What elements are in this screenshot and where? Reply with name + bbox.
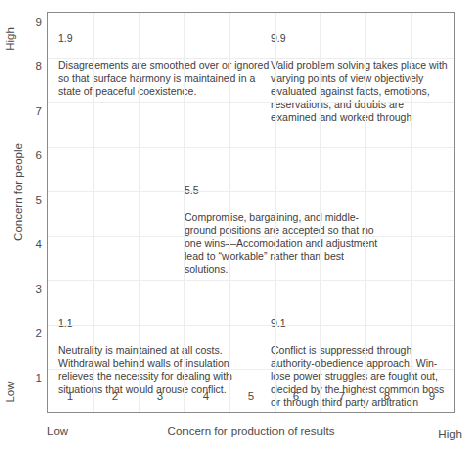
cell-annotation-1-1: 1.1 Neutrality is maintained at all cost…	[58, 304, 258, 396]
cell-text-9-9: Valid problem solving takes place with v…	[271, 59, 448, 124]
gridline-horizontal	[48, 147, 454, 148]
gridline-horizontal	[48, 236, 454, 237]
gridline-vertical	[93, 13, 94, 412]
x-axis-tick-labels: 123456789	[47, 390, 455, 412]
gridline-vertical	[411, 13, 412, 412]
y-tick-label: 2	[28, 327, 42, 339]
gridline-vertical	[184, 13, 185, 412]
cell-annotation-9-9: 9.9 Valid problem solving takes place wi…	[271, 19, 451, 125]
gridline-horizontal	[48, 102, 454, 103]
gridline-horizontal	[48, 280, 454, 281]
gridline-vertical	[275, 13, 276, 412]
cell-code-1-1: 1.1	[58, 317, 258, 330]
gridline-horizontal	[48, 191, 454, 192]
x-tick-label: 6	[281, 390, 311, 402]
gridline-horizontal	[48, 369, 454, 370]
x-tick-label: 9	[417, 390, 447, 402]
x-tick-label: 2	[100, 390, 130, 402]
managerial-grid-diagram: { "chart_data": { "type": "scatter", "ti…	[0, 0, 470, 460]
cell-code-9-9: 9.9	[271, 32, 451, 45]
x-axis-title: Concern for production of results	[47, 425, 455, 437]
y-tick-label: 9	[28, 16, 42, 28]
gridline-vertical	[139, 13, 140, 412]
gridline-vertical	[229, 13, 230, 412]
cell-code-1-9: 1.9	[58, 32, 273, 45]
y-tick-label: 7	[28, 105, 42, 117]
gridline-vertical	[320, 13, 321, 412]
x-tick-label: 1	[55, 390, 85, 402]
cell-annotation-5-5: 5.5 Compromise, bargaining, and middle-g…	[184, 171, 384, 277]
gridline-vertical	[365, 13, 366, 412]
y-axis-tick-labels: 987654321	[16, 12, 42, 413]
y-axis-high-label: High	[4, 19, 16, 59]
cell-text-5-5: Compromise, bargaining, and middle-groun…	[184, 211, 377, 276]
gridline-horizontal	[48, 325, 454, 326]
gridline-horizontal	[48, 58, 454, 59]
y-tick-label: 5	[28, 194, 42, 206]
y-axis-low-label: Low	[4, 372, 16, 412]
cell-text-1-9: Disagreements are smoothed over or ignor…	[58, 59, 269, 97]
y-tick-label: 1	[28, 372, 42, 384]
x-axis-high-label: High	[422, 428, 462, 440]
y-tick-label: 6	[28, 149, 42, 161]
x-tick-label: 5	[236, 390, 266, 402]
x-tick-label: 3	[145, 390, 175, 402]
y-tick-label: 3	[28, 283, 42, 295]
y-tick-label: 4	[28, 238, 42, 250]
cell-code-9-1: 9.1	[271, 317, 456, 330]
x-tick-label: 7	[327, 390, 357, 402]
grid-plot-area: 1.9 Disagreements are smoothed over or i…	[47, 12, 455, 413]
x-tick-label: 8	[372, 390, 402, 402]
x-tick-label: 4	[191, 390, 221, 402]
y-tick-label: 8	[28, 60, 42, 72]
